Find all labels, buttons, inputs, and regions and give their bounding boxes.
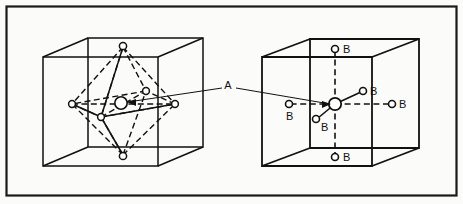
label-b-upper-right: B xyxy=(370,85,377,97)
b-atom-left xyxy=(286,101,293,108)
label-b-bottom: B xyxy=(343,151,350,163)
octa-vertex-bottom xyxy=(119,152,126,159)
octa-vertex-back xyxy=(143,88,150,95)
left-center-atom-a xyxy=(115,97,127,109)
b-atom-bottom xyxy=(332,154,339,161)
octa-vertex-right xyxy=(172,101,179,108)
figure-container: A B B B B B B xyxy=(0,0,463,204)
label-a-callout: A xyxy=(224,79,232,91)
b-atom-lower-left xyxy=(313,116,320,123)
label-b-top: B xyxy=(343,43,350,55)
octa-vertex-top xyxy=(119,42,126,49)
label-b-lower-left: B xyxy=(321,121,328,133)
octa-vertex-front xyxy=(98,114,105,121)
crystal-structure-diagram: A B B B B B B xyxy=(0,0,463,204)
b-atom-right xyxy=(389,101,396,108)
label-b-left: B xyxy=(286,110,293,122)
octa-vertex-left xyxy=(69,101,76,108)
b-atom-upper-right xyxy=(360,88,367,95)
b-atom-top xyxy=(332,46,339,53)
label-b-right: B xyxy=(399,98,406,110)
